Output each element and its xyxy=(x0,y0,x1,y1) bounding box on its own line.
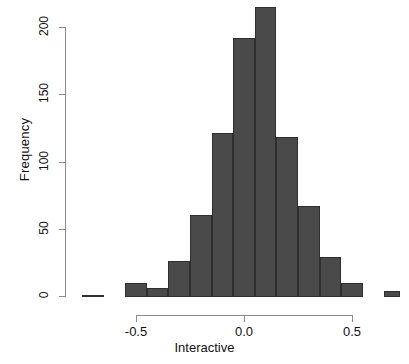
histogram-bar xyxy=(168,261,190,297)
x-tick-mark xyxy=(352,315,353,322)
x-tick-label: -0.5 xyxy=(106,324,166,339)
x-tick-mark xyxy=(136,315,137,322)
histogram-bar xyxy=(320,257,342,297)
histogram-bar xyxy=(147,288,169,297)
histogram-bar xyxy=(255,7,277,297)
histogram-bars xyxy=(0,0,409,364)
histogram-bar xyxy=(341,283,363,297)
histogram-bar xyxy=(82,295,104,297)
x-tick-label: 0.5 xyxy=(322,324,382,339)
histogram-bar xyxy=(125,283,147,297)
histogram-bar xyxy=(384,291,399,297)
histogram-bar xyxy=(276,137,298,297)
histogram-bar xyxy=(233,38,255,297)
x-axis-label: Interactive xyxy=(0,340,409,355)
x-tick-mark xyxy=(244,315,245,322)
x-tick-label: 0.0 xyxy=(214,324,274,339)
histogram-plot: Frequency 050100150200 -0.50.00.5 Intera… xyxy=(0,0,409,364)
histogram-bar xyxy=(298,206,320,297)
histogram-bar xyxy=(212,133,234,297)
histogram-bar xyxy=(190,215,212,297)
